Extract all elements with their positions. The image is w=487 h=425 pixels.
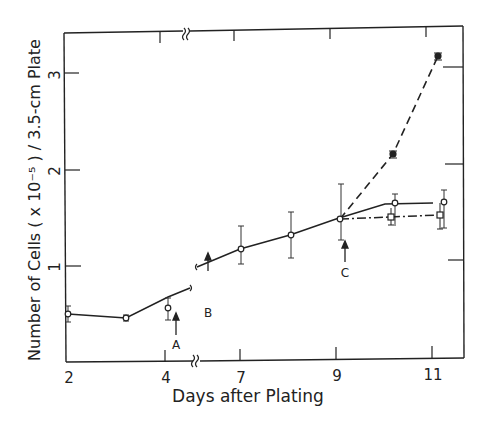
open-circle-marker [441,199,447,205]
markers [65,53,447,321]
annotation-b: B [204,306,212,320]
series-dashed [340,56,438,219]
filled-circle-marker [435,53,441,59]
open-circle-marker [123,315,129,321]
arrow-up-icon [173,313,179,320]
arrow-up-icon [205,253,211,260]
open-square-marker [388,214,394,220]
annotation-c: C [341,266,349,280]
axis-break-icon [183,28,199,367]
y-tick-label: 1 [46,262,64,272]
filled-circle-marker [390,151,396,157]
x-tick-label: 7 [236,369,246,387]
x-tick-label: 4 [161,369,171,387]
annotation-a: A [172,338,181,352]
x-tick-label: 11 [423,366,442,384]
line-chart: 2 4 7 9 11 1 2 3 Days after Plating Numb… [0,0,487,425]
annotation-labels: A B C [172,266,349,352]
x-tick-label: 9 [332,367,342,385]
x-axis-title: Days after Plating [172,386,324,406]
annotation-arrows [173,241,348,335]
y-axis-title: Number of Cells ( x 10⁻⁵ ) / 3.5-cm Plat… [25,39,44,361]
error-bars-control [65,184,447,322]
open-circle-marker [337,216,343,222]
open-circle-marker [65,311,71,317]
open-circle-marker [238,246,244,252]
arrow-up-icon [342,241,348,248]
open-circle-marker [288,232,294,238]
series-control [68,203,433,318]
x-tick-label: 2 [64,369,74,387]
y-tick-label: 3 [46,70,64,80]
y-axis-ticks [64,67,464,266]
open-circle-marker [165,305,171,311]
open-square-marker [437,212,443,218]
open-circle-marker [392,200,398,206]
x-axis-ticks [160,26,432,361]
y-tick-labels: 1 2 3 [46,70,64,272]
axes-frame [64,26,464,362]
y-tick-label: 2 [46,166,64,176]
x-tick-labels: 2 4 7 9 11 [64,366,442,387]
